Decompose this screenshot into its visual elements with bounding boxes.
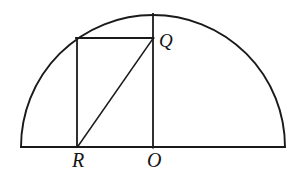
point-label-r: R bbox=[72, 150, 84, 170]
point-label-q: Q bbox=[159, 31, 173, 50]
diagonal-rq-line bbox=[78, 39, 154, 148]
geometry-figure: Q R O bbox=[0, 0, 299, 177]
point-label-o: O bbox=[147, 150, 161, 170]
